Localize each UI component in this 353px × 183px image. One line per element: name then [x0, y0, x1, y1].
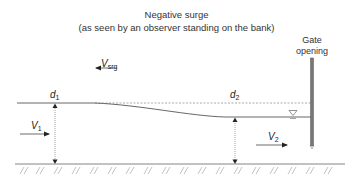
v1-label: V1	[31, 120, 42, 132]
sluice-gate	[311, 58, 314, 146]
gate-label-line2: opening	[287, 46, 337, 57]
gate-label-line1: Gate	[287, 35, 337, 46]
d2-label: d2	[230, 89, 239, 101]
gate-tip	[311, 146, 314, 149]
d2-arrow-down-icon	[233, 160, 238, 165]
d1-arrow-up-icon	[53, 104, 58, 109]
d2-arrow-up-icon	[233, 118, 238, 123]
bed-hatching	[20, 167, 332, 174]
d1-label: d1	[50, 89, 59, 101]
v2-label: V2	[268, 131, 279, 143]
surge-profile-curve	[95, 103, 312, 117]
vsrg-label: Vsrg	[101, 58, 117, 70]
d1-arrow-down-icon	[53, 160, 58, 165]
